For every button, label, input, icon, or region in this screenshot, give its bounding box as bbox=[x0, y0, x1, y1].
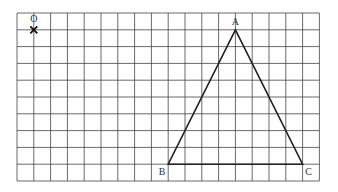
grid-diagram: O ABC bbox=[0, 0, 338, 192]
vertex-label-c: C bbox=[305, 166, 312, 177]
vertex-label-b: B bbox=[159, 166, 166, 177]
point-o-marker: O bbox=[30, 13, 37, 34]
square-grid bbox=[17, 13, 319, 181]
vertex-label-a: A bbox=[232, 16, 240, 27]
point-o-label: O bbox=[30, 13, 37, 24]
